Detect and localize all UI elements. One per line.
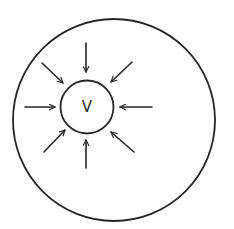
diagram-canvas: V: [0, 0, 234, 229]
arrow-bottom-left-icon: [44, 130, 65, 152]
arrow-top-left-icon: [42, 63, 63, 83]
outer-circle: [13, 19, 215, 221]
diagram: V: [0, 0, 234, 229]
arrow-bottom-right-icon: [111, 132, 134, 152]
arrow-top-right-icon: [111, 62, 132, 82]
volume-label: V: [82, 98, 93, 116]
